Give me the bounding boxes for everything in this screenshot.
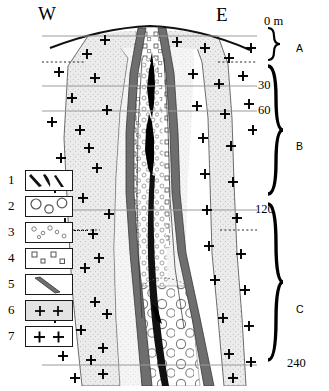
legend-item-6: 6 xyxy=(4,298,76,324)
legend-number-6: 6 xyxy=(8,302,15,318)
legend-item-7: 7 xyxy=(4,324,76,350)
legend-number-5: 5 xyxy=(8,276,15,292)
legend-item-4: 4 xyxy=(4,246,76,272)
legend-item-2: 2 xyxy=(4,194,76,220)
legend-item-1: 1 xyxy=(4,168,76,194)
dark-lens-streaks-swatch xyxy=(25,170,73,191)
small-squares-swatch xyxy=(25,248,73,269)
legend-number-3: 3 xyxy=(8,224,15,240)
plus-signs-on-white-swatch xyxy=(25,326,73,347)
depth-label-240: 240 xyxy=(287,356,306,371)
zone-label-c: C xyxy=(296,303,304,315)
legend-item-3: 3 xyxy=(4,220,76,246)
zone-brackets xyxy=(262,26,288,386)
legend-number-7: 7 xyxy=(8,328,15,344)
zone-label-b: B xyxy=(296,140,303,152)
legend-number-4: 4 xyxy=(8,250,15,266)
legend-dotted-line xyxy=(74,230,88,231)
legend: 1 2 3 xyxy=(4,168,76,350)
legend-number-2: 2 xyxy=(8,198,15,214)
fine-circles-stipple-swatch xyxy=(25,222,73,243)
cross-section-figure: W E xyxy=(0,0,329,391)
legend-number-1: 1 xyxy=(8,172,15,188)
large-open-circles-swatch xyxy=(25,196,73,217)
gray-diagonal-band-swatch xyxy=(25,274,73,295)
zone-label-a: A xyxy=(296,42,303,54)
legend-item-5: 5 xyxy=(4,272,76,298)
plus-signs-on-gray-swatch xyxy=(25,300,73,321)
